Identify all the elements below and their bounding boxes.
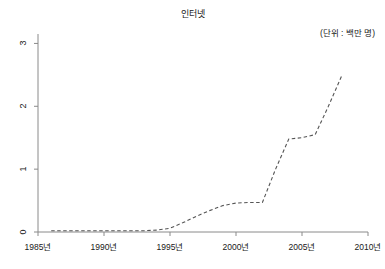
x-axis-ticks [38,232,368,236]
data-line-internet [51,76,341,231]
x-tick-label: 1990년 [91,240,118,252]
axes [38,34,368,232]
x-tick-label: 1985년 [25,240,52,252]
y-tick-label: 3 [18,36,28,50]
chart-container: 인터넷 (단위 : 백만 명) 0123 1985년1990년1995년2000… [0,0,385,269]
y-tick-label: 0 [18,225,28,239]
data-series-group [51,76,341,231]
plot-area [0,0,385,269]
x-tick-label: 2000년 [223,240,250,252]
x-tick-label: 2010년 [355,240,382,252]
y-axis-ticks [34,43,38,232]
y-tick-label: 2 [18,99,28,113]
y-tick-label: 1 [18,162,28,176]
x-tick-label: 1995년 [157,240,184,252]
x-tick-label: 2005년 [289,240,316,252]
